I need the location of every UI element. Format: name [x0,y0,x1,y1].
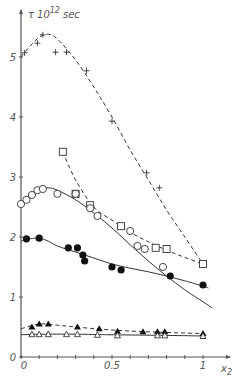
marker-filled-circle-icon [167,272,174,279]
curve-open-circle [21,188,212,308]
marker-plus-icon [53,49,59,55]
marker-filled-circle-icon [74,244,81,251]
marker-open-square-icon [163,246,170,253]
x-tick-label: 1 [200,360,206,371]
marker-open-circle-icon [54,190,61,197]
x-tick-label: 0.5 [104,360,120,371]
marker-open-square-icon [200,261,207,268]
marker-open-square-icon [152,244,159,251]
y-axis-arrow-icon [19,9,23,14]
marker-plus-icon [144,170,150,176]
x-axis-title: x2 [220,363,232,377]
marker-filled-circle-icon [81,257,88,264]
chart-plot: 01234500.51 τ1012sec x2 [0,0,238,381]
x-axis-arrow-icon [226,355,231,359]
y-tick-label: 0 [10,352,16,363]
marker-open-circle-icon [159,263,166,270]
y-tick-label: 5 [10,52,16,63]
fit-curves [21,34,212,336]
y-tick-label: 1 [10,292,16,303]
marker-filled-circle-icon [108,263,115,270]
marker-filled-circle-icon [23,235,30,242]
marker-filled-circle-icon [36,235,43,242]
marker-plus-icon [109,118,115,124]
data-markers [17,32,206,339]
marker-filled-triangle-icon [45,321,52,327]
marker-open-circle-icon [72,190,79,197]
marker-filled-triangle-icon [74,324,81,330]
marker-plus-icon [40,32,46,38]
marker-filled-circle-icon [199,281,206,288]
marker-open-circle-icon [87,205,94,212]
y-axis-title: τ1012sec [28,6,80,20]
marker-plus-icon [64,49,70,55]
curve-plus [21,34,203,264]
marker-open-square-icon [118,223,125,230]
marker-open-circle-icon [127,227,134,234]
y-tick-label: 3 [10,172,16,183]
marker-plus-icon [84,68,90,74]
marker-filled-circle-icon [118,266,125,273]
marker-open-circle-icon [141,245,148,252]
curve-filled-circle [21,238,208,288]
marker-open-circle-icon [94,212,101,219]
marker-plus-icon [156,185,162,191]
marker-open-circle-icon [134,242,141,249]
marker-filled-circle-icon [65,244,72,251]
y-tick-label: 2 [10,232,16,243]
marker-open-square-icon [59,148,66,155]
y-tick-label: 4 [10,112,16,123]
marker-filled-triangle-icon [96,325,103,331]
marker-open-circle-icon [39,185,46,192]
x-tick-label: 0 [21,360,27,371]
